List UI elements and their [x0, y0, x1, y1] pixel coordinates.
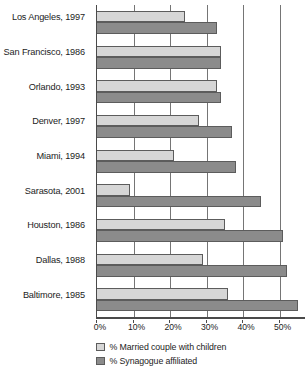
bar-groups: [97, 5, 305, 317]
legend-label: % Married couple with children: [110, 342, 227, 352]
bar-group: [97, 109, 305, 144]
bar-group: [97, 178, 305, 213]
bar: [97, 80, 217, 92]
category-label: San Francisco, 1986: [0, 35, 90, 70]
bar: [97, 288, 228, 300]
category-label: Denver, 1997: [0, 104, 90, 139]
legend-item: % Synagogue affiliated: [0, 354, 305, 368]
bar: [97, 265, 287, 277]
bar: [97, 126, 232, 138]
bar-group: [97, 248, 305, 283]
legend-item: % Married couple with children: [0, 340, 305, 354]
plot-wrapper: Los Angeles, 1997San Francisco, 1986Orla…: [0, 0, 305, 322]
bar-group: [97, 144, 305, 179]
x-axis-tick-label: 40%: [237, 322, 254, 332]
x-axis-tick-label: 0%: [94, 322, 106, 332]
bar-group: [97, 282, 305, 317]
bar-group: [97, 213, 305, 248]
bar: [97, 11, 185, 23]
bar: [97, 46, 221, 58]
bar: [97, 219, 225, 231]
bar: [97, 254, 203, 266]
bar-group: [97, 74, 305, 109]
bar: [97, 184, 130, 196]
x-axis-tick-label: 50%: [274, 322, 291, 332]
chart-legend: % Married couple with children% Synagogu…: [0, 340, 305, 368]
category-label: Miami, 1994: [0, 139, 90, 174]
x-axis-tick-labels: 0%10%20%30%40%50%: [96, 320, 305, 336]
bar-group: [97, 5, 305, 40]
plot-area: [96, 5, 305, 317]
legend-swatch-icon: [96, 343, 105, 352]
x-axis-tick-label: 20%: [164, 322, 181, 332]
legend-label: % Synagogue affiliated: [110, 356, 198, 366]
category-label: Sarasota, 2001: [0, 173, 90, 208]
category-label: Houston, 1986: [0, 208, 90, 243]
category-label: Baltimore, 1985: [0, 277, 90, 312]
bar: [97, 300, 298, 312]
bar: [97, 230, 283, 242]
bar: [97, 57, 221, 69]
bar: [97, 196, 261, 208]
bar: [97, 22, 217, 34]
legend-swatch-icon: [96, 357, 105, 366]
grouped-bar-chart: Los Angeles, 1997San Francisco, 1986Orla…: [0, 0, 305, 377]
bar: [97, 115, 199, 127]
category-label: Los Angeles, 1997: [0, 0, 90, 35]
x-axis-tick-label: 30%: [201, 322, 218, 332]
bar-group: [97, 40, 305, 75]
x-axis-tick-label: 10%: [128, 322, 145, 332]
bar: [97, 161, 236, 173]
category-axis-labels: Los Angeles, 1997San Francisco, 1986Orla…: [0, 0, 90, 312]
x-axis-baseline: [96, 317, 305, 319]
category-label: Dallas, 1988: [0, 243, 90, 278]
bar: [97, 150, 174, 162]
bar: [97, 92, 221, 104]
category-label: Orlando, 1993: [0, 69, 90, 104]
